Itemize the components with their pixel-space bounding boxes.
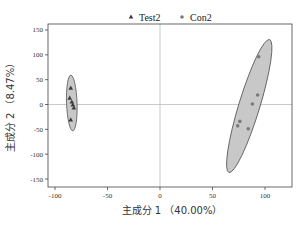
circle-marker-icon xyxy=(257,55,261,59)
legend: Test2Con2 xyxy=(129,12,212,23)
x-tick-label: -50 xyxy=(103,192,113,200)
legend-item-con2: Con2 xyxy=(180,12,211,23)
x-tick-label: 50 xyxy=(209,192,217,200)
y-tick-label: -50 xyxy=(34,126,44,134)
circle-marker-icon xyxy=(236,124,240,128)
y-axis: 150100500-50-100-150 xyxy=(30,26,48,183)
legend-label: Test2 xyxy=(139,12,161,23)
circle-marker-icon xyxy=(251,102,255,106)
y-tick-label: -150 xyxy=(30,176,43,184)
y-tick-label: 50 xyxy=(36,76,44,84)
triangle-marker-icon xyxy=(129,15,134,19)
x-axis-title: 主成分 1 （40.00%） xyxy=(122,205,223,216)
confidence-ellipses xyxy=(66,36,280,175)
circle-marker-icon xyxy=(238,120,242,124)
ellipse-con2 xyxy=(219,36,280,175)
y-axis-title: 主成分 2 （8.47%） xyxy=(5,58,16,153)
x-tick-label: 100 xyxy=(260,192,271,200)
x-tick-label: 0 xyxy=(158,192,162,200)
y-tick-label: -100 xyxy=(30,151,43,159)
circle-marker-icon xyxy=(246,127,250,131)
data-points xyxy=(67,55,260,131)
y-tick-label: 100 xyxy=(33,51,44,59)
circle-marker-icon xyxy=(256,93,260,97)
x-tick-label: -100 xyxy=(49,192,62,200)
pca-scatter-chart: Test2Con2 150100500-50-100-150 -100-5005… xyxy=(0,0,306,226)
legend-item-test2: Test2 xyxy=(129,12,161,23)
y-tick-label: 150 xyxy=(33,26,44,34)
circle-marker-icon xyxy=(180,15,184,19)
y-tick-label: 0 xyxy=(40,101,44,109)
legend-label: Con2 xyxy=(190,12,212,23)
x-axis: -100-50050100 xyxy=(49,187,271,200)
